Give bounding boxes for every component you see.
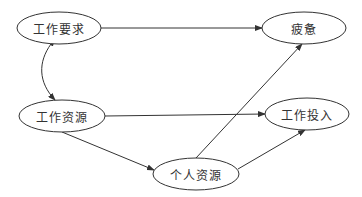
edge-job-resources-to-personal-resources (62, 132, 154, 170)
edge-personal-resources-to-work-engagement (238, 130, 305, 169)
node-label-job-demands: 工作要求 (33, 20, 85, 37)
node-label-work-engagement: 工作投入 (281, 106, 333, 123)
edge-job-resources-to-work-engagement (105, 114, 265, 116)
node-label-exhaustion: 疲惫 (291, 20, 317, 37)
node-label-job-resources: 工作资源 (36, 108, 88, 125)
node-label-personal-resources: 个人资源 (170, 166, 222, 183)
edge-job-demands-job-resources-correlation (42, 44, 55, 100)
